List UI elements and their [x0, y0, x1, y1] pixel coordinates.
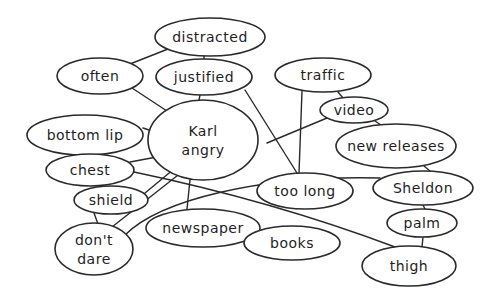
node-often[interactable]: often: [57, 58, 143, 94]
edge-distracted-to-often: [130, 49, 168, 64]
node-label: Sheldon: [393, 180, 453, 196]
node-traffic[interactable]: traffic: [275, 58, 371, 92]
node-books[interactable]: books: [244, 226, 340, 260]
node-palm[interactable]: palm: [387, 209, 457, 237]
node-label: Karl: [188, 123, 217, 139]
node-label: too long: [274, 183, 335, 199]
node-label: bottom lip: [47, 127, 124, 143]
node-label: dare: [77, 251, 111, 267]
node-bottom-lip[interactable]: bottom lip: [27, 115, 143, 155]
edge-bottom-lip-to-karl-angry: [143, 128, 149, 130]
node-newspaper[interactable]: newspaper: [146, 209, 260, 247]
node-label: shield: [89, 192, 133, 208]
node-thigh[interactable]: thigh: [362, 246, 456, 286]
node-shield[interactable]: shield: [74, 186, 148, 214]
edge-traffic-to-too-long: [299, 91, 302, 173]
edge-often-to-karl-angry: [132, 88, 170, 113]
mind-map-canvas: distractedoftenjustifiedtrafficvideoKarl…: [0, 0, 497, 301]
edge-justified-to-karl-angry: [199, 95, 200, 100]
node-chest[interactable]: chest: [46, 154, 134, 186]
node-label: justified: [173, 69, 234, 85]
node-label: distracted: [172, 29, 248, 45]
node-karl-angry[interactable]: Karlangry: [148, 100, 258, 180]
node-label: often: [81, 68, 120, 84]
edge-palm-to-thigh: [422, 237, 423, 247]
node-label: don't: [75, 232, 113, 248]
node-label: newspaper: [162, 220, 243, 236]
node-justified[interactable]: justified: [156, 59, 252, 95]
node-label: new releases: [347, 138, 445, 154]
node-dont-dare[interactable]: don'tdare: [55, 223, 133, 275]
node-label: traffic: [301, 67, 346, 83]
node-label: angry: [182, 142, 225, 158]
node-distracted[interactable]: distracted: [155, 18, 265, 56]
node-label: chest: [70, 162, 110, 178]
node-label: books: [270, 235, 314, 251]
node-outline: [148, 100, 258, 180]
node-too-long[interactable]: too long: [257, 173, 353, 209]
node-label: palm: [404, 215, 441, 231]
node-label: thigh: [390, 258, 429, 274]
node-sheldon[interactable]: Sheldon: [373, 171, 473, 205]
edge-video-to-karl-angry: [267, 118, 327, 143]
node-label: video: [334, 102, 375, 118]
node-new-releases[interactable]: new releases: [336, 124, 456, 168]
concept-nodes: distractedoftenjustifiedtrafficvideoKarl…: [27, 18, 473, 286]
node-video[interactable]: video: [320, 97, 388, 123]
